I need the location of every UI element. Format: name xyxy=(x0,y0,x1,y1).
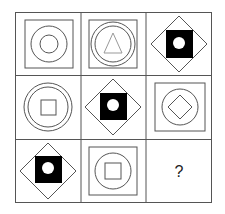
cell-r2-c3 xyxy=(155,83,205,131)
white-circle-shape xyxy=(107,99,119,111)
inner-circle-shape xyxy=(28,87,68,127)
small-diamond-shape xyxy=(168,95,192,119)
cell-r2-c2 xyxy=(85,79,141,135)
white-circle-shape xyxy=(173,37,185,49)
small-square-shape xyxy=(105,163,121,179)
white-circle-shape xyxy=(42,162,54,174)
cell-r1-c3 xyxy=(151,16,207,72)
cell-r3-c1 xyxy=(20,143,76,199)
cell-r1-c2 xyxy=(89,20,137,68)
cell-r1-c1 xyxy=(25,20,73,68)
inner-circle-shape xyxy=(95,26,131,62)
large-circle-shape xyxy=(31,26,67,62)
outer-square-shape xyxy=(25,20,73,68)
cell-r3-c3: ? xyxy=(175,163,184,180)
large-circle-shape xyxy=(91,22,135,66)
cell-r3-c2 xyxy=(89,147,137,195)
small-circle-shape xyxy=(40,35,58,53)
outer-square-shape xyxy=(89,20,137,68)
triangle-shape xyxy=(104,33,122,53)
question-mark: ? xyxy=(175,163,184,180)
outer-square-shape xyxy=(89,147,137,195)
large-circle-shape xyxy=(24,83,72,131)
circle-shape xyxy=(95,153,131,189)
puzzle-grid: ? xyxy=(0,0,225,214)
cell-r2-c1 xyxy=(24,83,72,131)
small-square-shape xyxy=(41,100,56,115)
